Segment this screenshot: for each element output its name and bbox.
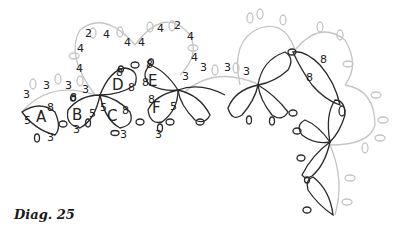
svg-text:3: 3 <box>243 65 250 78</box>
svg-text:3: 3 <box>200 61 207 74</box>
svg-text:3: 3 <box>120 128 127 141</box>
ring-label-e: E <box>148 72 157 90</box>
svg-text:4: 4 <box>124 36 131 49</box>
svg-text:5: 5 <box>89 107 96 120</box>
svg-text:4: 4 <box>187 30 194 43</box>
svg-text:3: 3 <box>224 61 231 74</box>
svg-text:4: 4 <box>138 36 145 49</box>
svg-text:3: 3 <box>43 79 50 92</box>
svg-text:3: 3 <box>155 128 162 141</box>
ring-label-b: B <box>72 106 82 124</box>
svg-text:3: 3 <box>73 123 80 136</box>
svg-text:4: 4 <box>103 28 110 41</box>
svg-text:4: 4 <box>76 62 83 75</box>
ring-label-c: C <box>107 107 117 125</box>
stitch-counts: 5 8 3 8 5 3 5 8 3 8 8 8 8 8 5 3 3 3 3 3 … <box>23 19 327 144</box>
svg-text:8: 8 <box>70 91 77 104</box>
svg-text:4: 4 <box>191 51 198 64</box>
svg-text:3: 3 <box>65 79 72 92</box>
svg-text:3: 3 <box>182 70 189 83</box>
svg-text:8: 8 <box>320 53 327 66</box>
figure-caption: Diag. 25 <box>14 207 75 222</box>
tatting-diagram: A B C D E F 5 8 3 8 5 3 5 8 3 8 8 8 8 8 … <box>0 0 405 233</box>
svg-text:3: 3 <box>82 83 89 96</box>
svg-text:3: 3 <box>23 88 30 101</box>
svg-text:8: 8 <box>142 76 149 89</box>
svg-text:8: 8 <box>306 71 313 84</box>
ring-label-a: A <box>36 108 47 126</box>
svg-text:2: 2 <box>85 27 92 40</box>
svg-text:8: 8 <box>122 104 129 117</box>
svg-text:4: 4 <box>157 22 164 35</box>
svg-text:8: 8 <box>116 66 123 79</box>
svg-text:8: 8 <box>146 58 153 71</box>
svg-text:5: 5 <box>100 101 107 114</box>
svg-text:3: 3 <box>47 131 54 144</box>
svg-text:4: 4 <box>77 42 84 55</box>
svg-text:5: 5 <box>24 114 31 127</box>
svg-text:5: 5 <box>170 100 177 113</box>
svg-text:2: 2 <box>174 19 181 32</box>
svg-text:8: 8 <box>128 81 135 94</box>
svg-text:8: 8 <box>47 101 54 114</box>
svg-text:8: 8 <box>148 93 155 106</box>
